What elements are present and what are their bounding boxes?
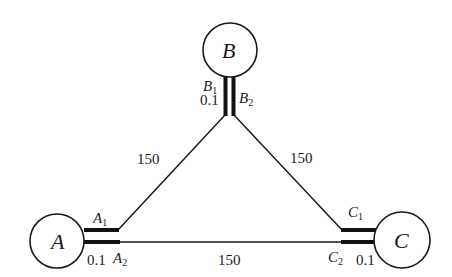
stub-length-c: 0.1 (356, 252, 375, 268)
stub-length-b: 0.1 (200, 92, 219, 108)
network-diagram: A B C A1 A2 B1 B2 C1 C2 0.1 0.1 0.1 150 … (0, 0, 452, 277)
node-a: A (30, 214, 84, 268)
port-label-a1: A1 (92, 210, 107, 228)
node-c: C (374, 212, 430, 268)
edge-b1-a1 (118, 115, 225, 230)
port-label-c2: C2 (328, 249, 343, 267)
stub-length-a: 0.1 (87, 252, 106, 268)
edge-length-bc: 150 (290, 150, 313, 166)
node-b: B (203, 23, 257, 77)
edge-length-ab: 150 (137, 151, 160, 167)
port-label-a2: A2 (112, 250, 127, 268)
node-a-label: A (49, 229, 65, 254)
port-label-c1: C1 (348, 204, 363, 222)
node-c-label: C (394, 228, 409, 253)
edge-length-ac: 150 (218, 252, 241, 268)
edge-b2-c1 (234, 115, 342, 230)
node-b-label: B (222, 38, 235, 63)
port-label-b2: B2 (239, 90, 253, 108)
